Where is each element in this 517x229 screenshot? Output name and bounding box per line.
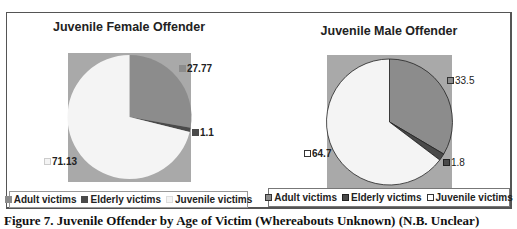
- pie-female: [67, 55, 191, 179]
- data-label-female-elderly: 1.1: [192, 127, 214, 138]
- label-value: 71.13: [52, 156, 77, 167]
- data-label-male-elderly: 1.8: [443, 157, 465, 168]
- legend-item-juvenile: Juvenile victims: [166, 194, 252, 205]
- legend-label: Juvenile victims: [175, 194, 252, 205]
- data-label-male-juvenile: 64.7: [304, 148, 331, 159]
- elderly-swatch-icon: [81, 196, 88, 203]
- legend-label: Adult victims: [14, 194, 77, 205]
- adult-swatch-icon: [179, 65, 186, 72]
- adult-swatch-icon: [265, 194, 272, 201]
- legend-item-elderly: Elderly victims: [342, 192, 422, 203]
- label-value: 27.77: [187, 63, 212, 74]
- legend-label: Adult victims: [274, 192, 337, 203]
- elderly-swatch-icon: [192, 129, 199, 136]
- juvenile-swatch-icon: [304, 150, 311, 157]
- pie-male: [327, 59, 453, 185]
- data-label-female-adult: 27.77: [179, 63, 212, 74]
- label-value: 64.7: [312, 148, 331, 159]
- legend-male: Adult victims Elderly victims Juvenile v…: [268, 188, 510, 207]
- chart-title-male: Juvenile Male Offender: [321, 24, 458, 38]
- legend-item-juvenile: Juvenile victims: [427, 192, 513, 203]
- legend-label: Elderly victims: [90, 194, 161, 205]
- juvenile-swatch-icon: [427, 194, 434, 201]
- label-value: 1.8: [451, 157, 465, 168]
- figure-caption: Figure 7. Juvenile Offender by Age of Vi…: [4, 213, 479, 229]
- juvenile-swatch-icon: [44, 158, 51, 165]
- data-label-female-juvenile: 71.13: [44, 156, 77, 167]
- legend-label: Elderly victims: [351, 192, 422, 203]
- data-label-male-adult: 33.5: [447, 75, 474, 86]
- elderly-swatch-icon: [443, 159, 450, 166]
- legend-item-adult: Adult victims: [5, 194, 77, 205]
- label-value: 1.1: [200, 127, 214, 138]
- juvenile-swatch-icon: [166, 196, 173, 203]
- label-value: 33.5: [455, 75, 474, 86]
- adult-swatch-icon: [5, 196, 12, 203]
- elderly-swatch-icon: [342, 194, 349, 201]
- legend-label: Juvenile victims: [436, 192, 513, 203]
- adult-swatch-icon: [447, 77, 454, 84]
- legend-item-adult: Adult victims: [265, 192, 337, 203]
- legend-female: Adult victims Elderly victims Juvenile v…: [9, 191, 248, 208]
- legend-item-elderly: Elderly victims: [81, 194, 161, 205]
